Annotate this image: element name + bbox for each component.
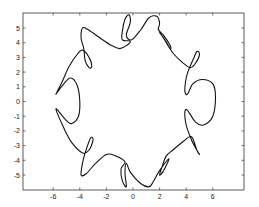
- x-tick-label: -2: [103, 193, 109, 200]
- parametric-plot: -6-4-20246 543210-1-2-3-4-5: [0, 0, 259, 207]
- x-tick-label: -6: [50, 193, 56, 200]
- y-tick-label: 0: [16, 98, 20, 105]
- y-tick-label: -4: [14, 157, 20, 164]
- x-tick-label: 4: [184, 193, 188, 200]
- y-tick-label: 2: [16, 69, 20, 76]
- y-tick-label: -3: [14, 142, 20, 149]
- plot-frame: [23, 13, 244, 190]
- y-tick-label: -5: [14, 172, 20, 179]
- y-tick-label: 3: [16, 54, 20, 61]
- x-axis: -6-4-20246: [50, 13, 215, 200]
- y-axis: 543210-1-2-3-4-5: [14, 25, 244, 179]
- curve-line: [56, 15, 216, 187]
- x-tick-label: 6: [211, 193, 215, 200]
- y-tick-label: 5: [16, 25, 20, 32]
- x-tick-label: 2: [158, 193, 162, 200]
- y-tick-label: -2: [14, 127, 20, 134]
- x-tick-label: 0: [131, 193, 135, 200]
- x-tick-label: -4: [77, 193, 83, 200]
- y-tick-label: -1: [14, 113, 20, 120]
- y-tick-label: 4: [16, 39, 20, 46]
- y-tick-label: 1: [16, 83, 20, 90]
